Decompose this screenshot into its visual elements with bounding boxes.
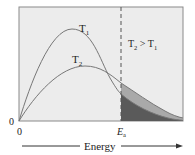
energy-distribution-diagram: T1 T2 T2 > T1 0 0 Ea Energy — [0, 0, 195, 155]
arrow-head-icon — [176, 144, 183, 149]
ea-label: Ea — [116, 126, 126, 138]
x-origin-label: 0 — [17, 126, 22, 137]
y-origin-label: 0 — [9, 116, 14, 127]
plot-area — [19, 7, 183, 121]
x-axis-label: Energy — [84, 140, 116, 152]
